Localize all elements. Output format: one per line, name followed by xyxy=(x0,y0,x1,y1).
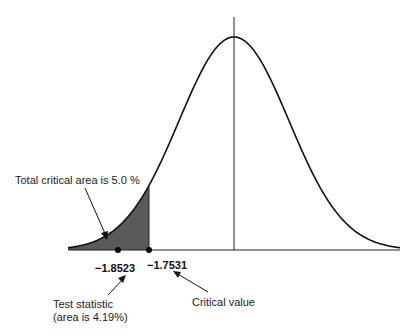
critical-value-point xyxy=(146,247,152,253)
test-statistic-value: −1.8523 xyxy=(95,262,135,274)
test-statistic-label-line1: Test statistic xyxy=(53,298,128,311)
test-statistic-label: Test statistic (area is 4.19%) xyxy=(53,298,128,324)
critical-value-value: −1.7531 xyxy=(147,259,187,271)
test-statistic-arrowhead xyxy=(118,275,126,283)
critical-value-arrow xyxy=(176,273,208,292)
critical-value-label: Critical value xyxy=(192,296,255,309)
critical-value-arrowhead xyxy=(173,271,181,278)
critical-area-label: Total critical area is 5.0 % xyxy=(15,174,140,187)
critical-area-arrow xyxy=(85,188,107,238)
distribution-chart xyxy=(0,0,413,336)
test-statistic-label-line2: (area is 4.19%) xyxy=(53,311,128,324)
test-statistic-point xyxy=(115,247,121,253)
critical-region-shading xyxy=(68,185,149,250)
